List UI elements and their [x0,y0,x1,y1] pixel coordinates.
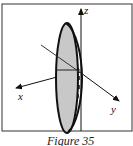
y-axis [81,73,119,101]
ellipse-disk [56,23,82,133]
y-axis-label: y [110,103,116,115]
disk-face [56,23,78,133]
z-axis-label: z [83,4,89,16]
figure-caption: Figure 35 [46,134,94,146]
x-axis [16,77,57,88]
figure-diagram: z y x Figure 35 [0,0,133,146]
x-axis-label: x [17,90,23,102]
